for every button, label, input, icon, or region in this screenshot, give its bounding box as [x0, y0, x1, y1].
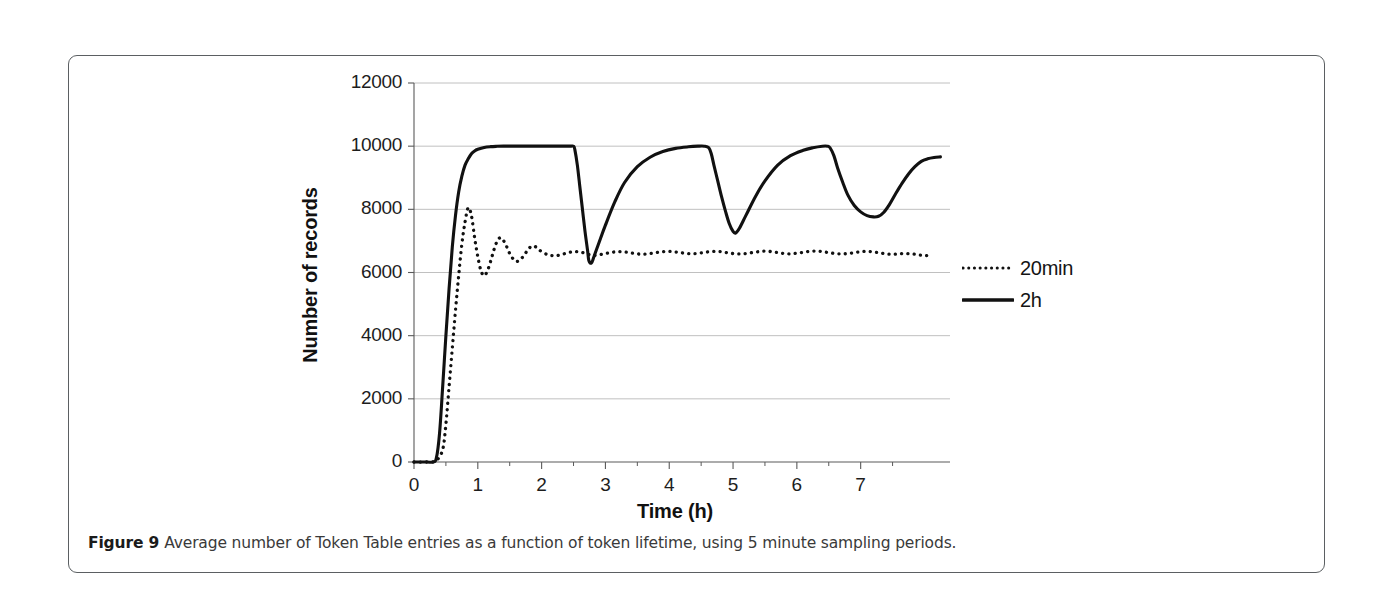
legend-label: 20min: [1020, 257, 1073, 280]
x-tick-label: 3: [580, 474, 630, 496]
x-axis-title: Time (h): [560, 500, 790, 523]
legend-label: 2h: [1020, 289, 1042, 312]
y-tick-label: 8000: [361, 197, 402, 219]
chart-legend: 20min2h: [962, 252, 1162, 316]
data-series: [414, 146, 940, 462]
plot-area: 020004000600080001000012000 01234567 Num…: [0, 0, 1389, 614]
x-tick-label: 7: [836, 474, 886, 496]
legend-item-2h: 2h: [962, 284, 1162, 316]
x-tick-label: 1: [453, 474, 503, 496]
gridlines: [414, 83, 950, 399]
y-tick-label: 6000: [361, 261, 402, 283]
y-tick-label: 4000: [361, 324, 402, 346]
y-axis-title: Number of records: [297, 150, 323, 400]
figure-container: 020004000600080001000012000 01234567 Num…: [0, 0, 1389, 614]
x-tick-label: 4: [644, 474, 694, 496]
series-line-20min: [414, 208, 931, 463]
y-tick-label: 10000: [351, 134, 402, 156]
legend-item-20min: 20min: [962, 252, 1162, 284]
figure-caption-label: Figure 9: [88, 534, 159, 552]
y-tick-label: 0: [392, 450, 402, 472]
legend-swatch-solid: [962, 293, 1014, 307]
x-tick-label: 6: [772, 474, 822, 496]
figure-caption: Figure 9Average number of Token Table en…: [88, 534, 1288, 552]
legend-swatch-dotted: [962, 261, 1014, 275]
y-tick-label: 2000: [361, 387, 402, 409]
y-tick-label: 12000: [351, 71, 402, 93]
x-tick-label: 0: [389, 474, 439, 496]
series-line-2h: [414, 146, 940, 462]
axis-ticks: [408, 83, 893, 469]
x-tick-label: 5: [708, 474, 758, 496]
x-tick-label: 2: [517, 474, 567, 496]
figure-caption-text: Average number of Token Table entries as…: [164, 534, 956, 552]
